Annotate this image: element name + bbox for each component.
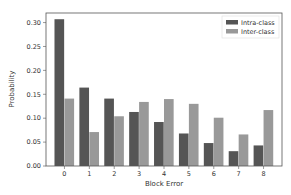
x-axis-label: Block Error bbox=[145, 180, 183, 188]
x-tick-label: 4 bbox=[162, 170, 166, 178]
x-tick-label: 0 bbox=[62, 170, 66, 178]
legend-swatch-intra-class bbox=[226, 20, 238, 25]
bar-inter-class-2 bbox=[114, 116, 124, 166]
bar-inter-class-7 bbox=[239, 134, 249, 166]
y-axis-label: Probability bbox=[8, 70, 16, 107]
y-tick-label: 0.05 bbox=[27, 138, 41, 146]
y-tick-label: 0.00 bbox=[27, 162, 41, 170]
bar-inter-class-3 bbox=[139, 102, 149, 166]
x-axis: 012345678 bbox=[62, 166, 265, 178]
bar-inter-class-5 bbox=[189, 104, 199, 166]
x-tick-label: 8 bbox=[261, 170, 265, 178]
bar-intra-class-4 bbox=[154, 122, 164, 166]
bar-chart: 0.000.050.100.150.200.250.30 012345678 B… bbox=[0, 0, 291, 195]
y-tick-label: 0.20 bbox=[27, 67, 41, 75]
legend-label-intra-class: Intra-class bbox=[241, 19, 275, 27]
bar-intra-class-0 bbox=[54, 19, 64, 166]
bar-inter-class-0 bbox=[64, 99, 74, 166]
bar-inter-class-6 bbox=[214, 118, 224, 166]
x-tick-label: 6 bbox=[212, 170, 216, 178]
bar-intra-class-8 bbox=[254, 145, 264, 166]
bars-group bbox=[54, 19, 273, 166]
y-tick-label: 0.10 bbox=[27, 114, 41, 122]
x-tick-label: 1 bbox=[87, 170, 91, 178]
bar-inter-class-1 bbox=[89, 132, 99, 166]
bar-inter-class-8 bbox=[264, 110, 274, 166]
legend-label-inter-class: Inter-class bbox=[241, 28, 275, 36]
y-tick-label: 0.15 bbox=[27, 91, 41, 99]
bar-intra-class-6 bbox=[204, 143, 214, 166]
y-tick-label: 0.30 bbox=[27, 19, 41, 27]
bar-intra-class-3 bbox=[129, 112, 139, 166]
y-axis: 0.000.050.100.150.200.250.30 bbox=[27, 19, 46, 170]
bar-intra-class-2 bbox=[104, 99, 114, 166]
legend-swatch-inter-class bbox=[226, 29, 238, 34]
bar-intra-class-7 bbox=[229, 151, 239, 166]
x-tick-label: 2 bbox=[112, 170, 116, 178]
x-tick-label: 3 bbox=[137, 170, 141, 178]
bar-intra-class-1 bbox=[79, 88, 89, 166]
y-tick-label: 0.25 bbox=[27, 43, 41, 51]
x-tick-label: 7 bbox=[237, 170, 241, 178]
legend: Intra-classInter-class bbox=[222, 16, 279, 38]
bar-intra-class-5 bbox=[179, 133, 189, 166]
x-tick-label: 5 bbox=[187, 170, 191, 178]
bar-inter-class-4 bbox=[164, 99, 174, 166]
